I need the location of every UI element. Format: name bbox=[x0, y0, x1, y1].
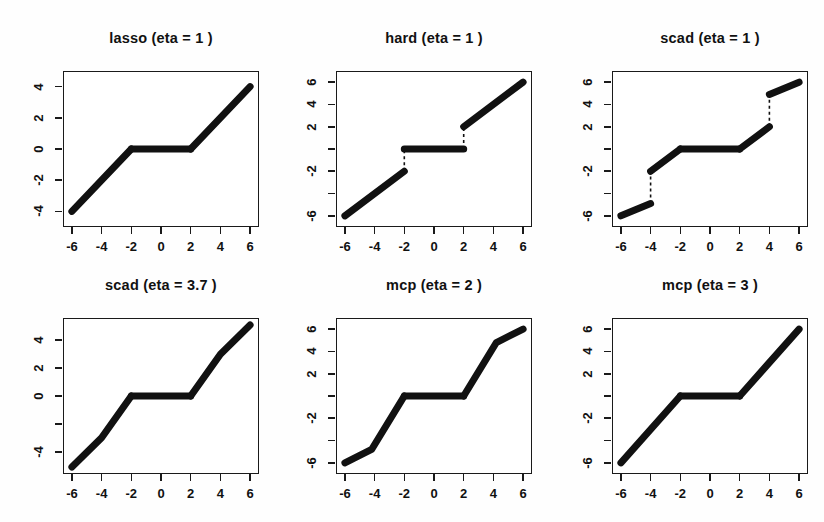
x-tick-label: -6 bbox=[66, 486, 78, 501]
x-tick-label: 0 bbox=[157, 486, 164, 501]
x-tick-mark bbox=[620, 474, 622, 481]
y-tick-label-text: -2 bbox=[579, 161, 597, 181]
y-tick-label-text: 4 bbox=[30, 330, 48, 350]
data-series-segment bbox=[464, 82, 523, 127]
y-tick-mark bbox=[604, 417, 611, 419]
x-tick-label: -4 bbox=[369, 239, 381, 254]
y-tick-label-text: 2 bbox=[579, 364, 597, 384]
x-tick-mark bbox=[71, 474, 73, 481]
x-tick-mark bbox=[160, 227, 162, 234]
y-tick-mark bbox=[328, 351, 335, 353]
y-tick-mark bbox=[55, 367, 62, 369]
x-tick-label: 4 bbox=[217, 486, 224, 501]
data-curve-layer bbox=[552, 277, 824, 522]
x-tick-mark bbox=[798, 227, 800, 234]
x-tick-label: 6 bbox=[519, 486, 526, 501]
data-series-segment bbox=[621, 396, 680, 463]
x-tick-label: 6 bbox=[246, 486, 253, 501]
x-tick-mark bbox=[374, 474, 376, 481]
x-tick-mark bbox=[739, 474, 741, 481]
x-tick-mark bbox=[493, 227, 495, 234]
x-tick-label: -2 bbox=[399, 239, 411, 254]
y-tick-label-text: 2 bbox=[579, 117, 597, 137]
x-tick-mark bbox=[433, 474, 435, 481]
x-tick-label: 0 bbox=[706, 239, 713, 254]
y-tick-label: 2 bbox=[29, 109, 49, 127]
x-tick-mark bbox=[404, 227, 406, 234]
plot-panel: scad (eta = 1 )-6-4-20246-6-2246 bbox=[552, 30, 824, 277]
y-tick-mark bbox=[604, 373, 611, 375]
y-tick-mark bbox=[604, 193, 611, 195]
y-tick-mark bbox=[55, 211, 62, 213]
data-series-segment bbox=[464, 329, 523, 396]
plot-panel: lasso (eta = 1 )-6-4-20246-4-2024 bbox=[3, 30, 319, 277]
x-tick-label: -6 bbox=[615, 486, 627, 501]
y-tick-label-text: 2 bbox=[303, 364, 321, 384]
y-tick-mark bbox=[55, 117, 62, 119]
x-tick-label: 6 bbox=[519, 239, 526, 254]
x-tick-label: -4 bbox=[96, 486, 108, 501]
x-tick-label: 2 bbox=[736, 239, 743, 254]
x-tick-label: 6 bbox=[795, 486, 802, 501]
y-tick-label: 6 bbox=[302, 320, 322, 338]
y-tick-label-text: 2 bbox=[30, 358, 48, 378]
y-tick-mark bbox=[604, 395, 611, 397]
y-tick-mark bbox=[604, 81, 611, 83]
y-tick-label-text: 4 bbox=[303, 94, 321, 114]
x-tick-mark bbox=[650, 227, 652, 234]
y-tick-label: 4 bbox=[302, 342, 322, 360]
y-tick-label: 6 bbox=[578, 73, 598, 91]
y-tick-mark bbox=[328, 193, 335, 195]
data-series-segment bbox=[72, 149, 131, 211]
x-tick-mark bbox=[620, 227, 622, 234]
y-tick-label: -2 bbox=[578, 409, 598, 427]
x-tick-label: 4 bbox=[766, 486, 773, 501]
plot-panel: mcp (eta = 2 )-6-4-20246-6-2246 bbox=[276, 277, 592, 522]
x-tick-label: -4 bbox=[645, 239, 657, 254]
y-tick-label-text: 0 bbox=[30, 386, 48, 406]
y-tick-label-text: -2 bbox=[579, 408, 597, 428]
x-tick-label: 6 bbox=[246, 239, 253, 254]
x-tick-mark bbox=[404, 474, 406, 481]
y-tick-label: -6 bbox=[302, 207, 322, 225]
y-tick-mark bbox=[604, 126, 611, 128]
y-tick-mark bbox=[328, 440, 335, 442]
y-tick-mark bbox=[55, 423, 62, 425]
y-tick-label-text: 6 bbox=[303, 72, 321, 92]
x-tick-mark bbox=[160, 474, 162, 481]
data-series-segment bbox=[621, 204, 651, 216]
y-tick-label-text: -2 bbox=[303, 408, 321, 428]
y-tick-label: -4 bbox=[29, 202, 49, 220]
x-tick-mark bbox=[433, 227, 435, 234]
y-tick-label: 4 bbox=[578, 342, 598, 360]
x-tick-mark bbox=[249, 474, 251, 481]
x-tick-mark bbox=[190, 474, 192, 481]
data-series-segment bbox=[345, 171, 404, 216]
y-tick-label-text: -6 bbox=[303, 206, 321, 226]
y-tick-label: -6 bbox=[578, 454, 598, 472]
y-tick-label: -2 bbox=[29, 171, 49, 189]
x-tick-mark bbox=[522, 474, 524, 481]
x-tick-label: 2 bbox=[187, 486, 194, 501]
x-tick-mark bbox=[190, 227, 192, 234]
y-tick-mark bbox=[328, 126, 335, 128]
x-tick-mark bbox=[101, 227, 103, 234]
y-tick-label-text: 0 bbox=[30, 139, 48, 159]
y-tick-label-text: -6 bbox=[579, 206, 597, 226]
y-tick-mark bbox=[604, 328, 611, 330]
y-tick-label-text: 4 bbox=[579, 341, 597, 361]
data-curve-layer bbox=[552, 30, 824, 277]
plot-panel: scad (eta = 3.7 )-6-4-20246-4024 bbox=[3, 277, 319, 522]
y-tick-mark bbox=[328, 215, 335, 217]
y-tick-mark bbox=[55, 395, 62, 397]
x-tick-label: -4 bbox=[369, 486, 381, 501]
y-tick-label-text: -6 bbox=[303, 453, 321, 473]
x-tick-mark bbox=[463, 474, 465, 481]
y-tick-label: 0 bbox=[29, 387, 49, 405]
y-tick-mark bbox=[55, 179, 62, 181]
x-tick-label: 2 bbox=[187, 239, 194, 254]
y-tick-label: 2 bbox=[302, 365, 322, 383]
y-tick-label: -6 bbox=[302, 454, 322, 472]
x-tick-mark bbox=[650, 474, 652, 481]
x-tick-label: -2 bbox=[126, 486, 138, 501]
